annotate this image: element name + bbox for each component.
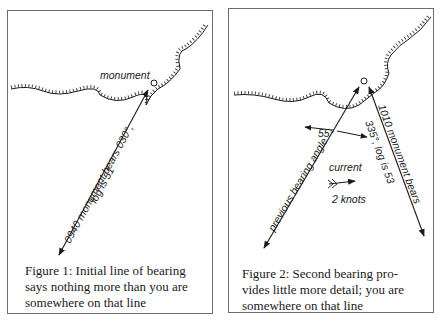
monument-marker xyxy=(361,78,367,84)
figure-1-caption: Figure 1: Initial line of bearing says n… xyxy=(25,263,210,311)
figure-2-caption: Figure 2: Second bearing pro- vides litt… xyxy=(242,266,432,314)
coastline xyxy=(234,15,431,109)
coastline xyxy=(11,23,208,105)
monument-marker xyxy=(151,80,157,86)
monument-label: monument xyxy=(100,69,151,81)
angle-arrow-right xyxy=(337,131,367,137)
current-label: current xyxy=(329,161,363,173)
previous-bearing-label: previous bearing angle xyxy=(265,135,330,234)
current-speed-label: 2 knots xyxy=(331,193,367,205)
figure-2-panel: 55° current 2 knots previous bearing ang… xyxy=(228,8,434,313)
figure-1-panel: monument 0940 monument bears 030°, log i… xyxy=(7,10,213,314)
